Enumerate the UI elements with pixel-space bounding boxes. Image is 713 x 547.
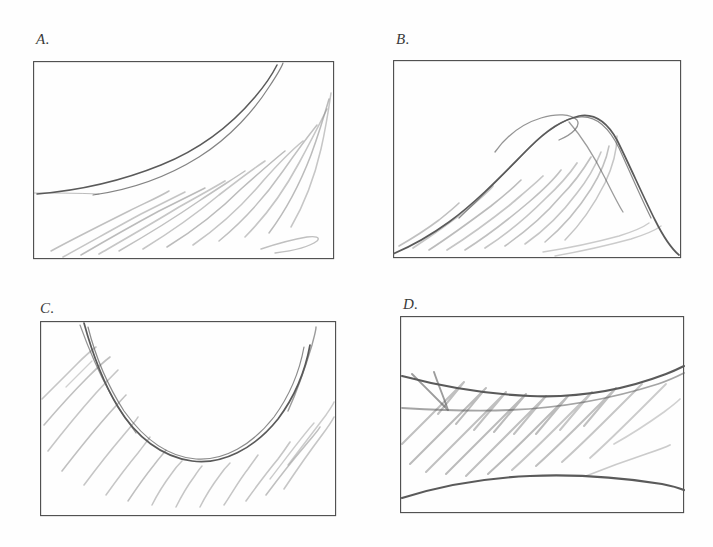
panel-d-top-left-wedge — [412, 372, 448, 410]
panel-d-lower-arc — [402, 475, 684, 498]
panel-a-figure — [33, 61, 335, 260]
panel-d-frame — [401, 317, 684, 513]
panel-a-curve-overdraw — [93, 63, 283, 195]
panel-c-label: C. — [40, 300, 55, 317]
panel-a-label: A. — [36, 31, 50, 48]
panel-c-hatching — [42, 347, 334, 507]
panel-c-figure — [40, 321, 337, 517]
panel-d-label: D. — [403, 296, 419, 313]
sketch-sheet: A. B. — [0, 0, 713, 547]
panel-b-label: B. — [396, 31, 410, 48]
panel-a-hatching — [51, 93, 331, 257]
panel-b-frame — [394, 61, 681, 258]
panel-d-figure — [400, 316, 685, 514]
panel-d-upper-arc — [402, 366, 684, 396]
panel-a-curve — [37, 65, 277, 194]
panel-a-frame — [34, 62, 334, 259]
panel-b-figure — [393, 60, 682, 259]
